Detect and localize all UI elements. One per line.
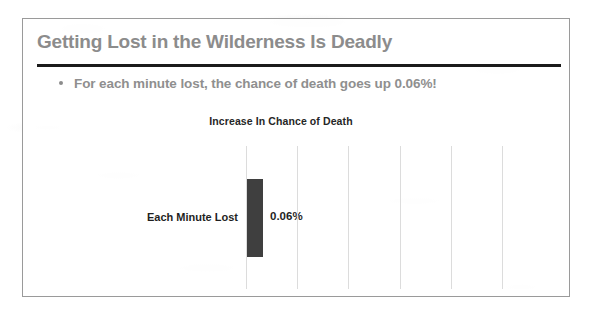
- chart-gridline: [297, 146, 298, 289]
- title-divider: [37, 64, 561, 67]
- chart-category-label: Each Minute Lost: [98, 211, 238, 223]
- slide-frame: Getting Lost in the Wilderness Is Deadly…: [22, 18, 570, 297]
- chart-gridline: [246, 146, 247, 289]
- chart-plot-area: 0.06%: [246, 146, 502, 289]
- chart-gridline: [400, 146, 401, 289]
- bullet-item-label: For each minute lost, the chance of deat…: [74, 76, 437, 91]
- chart-bar: [247, 179, 263, 257]
- bar-chart: Increase In Chance of Death Each Minute …: [23, 115, 571, 298]
- chart-title: Increase In Chance of Death: [7, 115, 555, 127]
- chart-gridline: [502, 146, 503, 289]
- chart-gridline: [348, 146, 349, 289]
- page-title: Getting Lost in the Wilderness Is Deadly: [37, 31, 392, 53]
- chart-gridline: [451, 146, 452, 289]
- bullet-dot-icon: [59, 81, 63, 85]
- bullet-list-item: For each minute lost, the chance of deat…: [59, 76, 437, 91]
